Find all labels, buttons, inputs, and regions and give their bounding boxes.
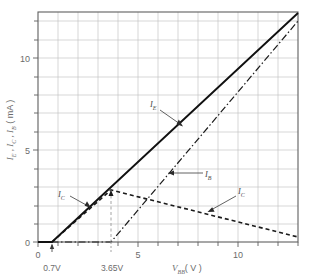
ie-label-sub: E [152, 105, 157, 111]
x-tick-label-0: 0 [35, 250, 40, 260]
y-tick-label-0: 0 [25, 238, 30, 248]
y-tick-label-10: 10 [20, 54, 30, 64]
y-axis-title: IE , IC , IB ( mA ) [5, 100, 17, 161]
chart-container: 0 5 10 0 5 10 [0, 0, 314, 276]
y-tick-label-5: 5 [25, 146, 30, 156]
ib-label-sub: B [208, 175, 212, 181]
x-tick-label-10: 10 [233, 250, 243, 260]
transistor-current-chart: 0 5 10 0 5 10 [0, 0, 314, 276]
x-tick-label-5: 5 [135, 250, 140, 260]
vbe-annotation: 0.7V [43, 263, 61, 273]
breakpoint-annotation: 3.65V [101, 263, 124, 273]
y-axis-title-unit: ( mA ) [5, 100, 15, 127]
x-axis-title-unit: ( V ) [185, 263, 202, 273]
x-axis-title: VBB( V ) [172, 263, 202, 275]
y-axis-title-sep2: , [5, 133, 15, 140]
y-axis-title-sep1: , [5, 147, 15, 154]
